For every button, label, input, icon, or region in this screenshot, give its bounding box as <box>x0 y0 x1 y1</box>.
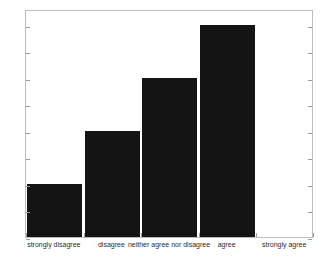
y-axis-tick <box>308 106 312 107</box>
x-axis-tick <box>26 233 27 237</box>
x-axis-tick <box>141 233 142 237</box>
y-axis-tick <box>26 186 30 187</box>
bars-layer <box>26 11 312 237</box>
x-axis-category-label: disagree <box>98 241 125 248</box>
y-axis-tick <box>26 133 30 134</box>
bar <box>200 25 255 237</box>
y-axis-tick <box>26 212 30 213</box>
y-axis-tick <box>26 106 30 107</box>
x-axis-tick <box>199 233 200 237</box>
bar <box>142 78 197 237</box>
bar <box>85 131 140 237</box>
y-axis-tick <box>308 212 312 213</box>
y-axis-tick <box>26 239 30 240</box>
plot-area <box>25 10 313 238</box>
x-axis-tick <box>84 233 85 237</box>
y-axis-tick <box>26 159 30 160</box>
y-axis-tick <box>26 53 30 54</box>
y-axis-tick <box>26 80 30 81</box>
y-axis-tick <box>308 27 312 28</box>
x-axis-tick <box>256 233 257 237</box>
x-axis-tick <box>313 233 314 237</box>
y-axis-tick <box>308 133 312 134</box>
bar <box>27 184 82 237</box>
bar-chart-figure: 00.511.522.533.54 strongly disagreedisag… <box>0 0 326 262</box>
y-axis-tick <box>308 159 312 160</box>
x-axis-category-label: strongly disagree <box>27 241 80 248</box>
y-axis-tick <box>308 53 312 54</box>
y-axis-tick <box>308 239 312 240</box>
y-axis-tick <box>26 27 30 28</box>
y-axis-tick <box>308 80 312 81</box>
x-axis-category-label: strongly agree <box>262 241 306 248</box>
x-axis-category-label: agree <box>218 241 236 248</box>
y-axis-tick <box>308 186 312 187</box>
x-axis-category-label: neither agree nor disagree <box>128 241 210 248</box>
